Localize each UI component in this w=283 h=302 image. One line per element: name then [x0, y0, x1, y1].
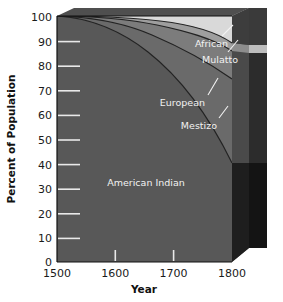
x-tick-label: 1600: [101, 267, 129, 280]
series-label-african: African: [195, 38, 228, 49]
population-composition-chart: 100 90 80 70 60 50 40 30 20 10 0 1500 16…: [0, 0, 283, 302]
series-label-mulatto: Mulatto: [202, 54, 238, 65]
stacked-areas: [57, 16, 232, 262]
series-label-mestizo: Mestizo: [181, 120, 217, 131]
depth-top-face: [57, 8, 249, 16]
y-tick-label: 50: [38, 134, 52, 147]
y-tick-label: 40: [38, 159, 52, 172]
x-axis-tick-labels: 1500 1600 1700 1800: [43, 267, 246, 280]
y-tick-label: 100: [31, 11, 52, 24]
x-tick-label: 1700: [160, 267, 188, 280]
y-tick-label: 80: [38, 60, 52, 73]
depth-outer-edge: [249, 8, 267, 248]
y-axis-title: Percent of Population: [5, 75, 17, 204]
y-tick-label: 20: [38, 208, 52, 221]
x-tick-label: 1500: [43, 267, 71, 280]
series-label-european: European: [160, 97, 205, 108]
y-tick-label: 90: [38, 36, 52, 49]
y-tick-label: 70: [38, 85, 52, 98]
y-axis-tick-labels: 100 90 80 70 60 50 40 30 20 10 0: [31, 11, 52, 270]
x-tick-label: 1800: [218, 267, 246, 280]
y-tick-label: 60: [38, 109, 52, 122]
depth-right-face: [232, 8, 249, 262]
x-axis-title: Year: [130, 283, 158, 295]
series-label-american-indian: American Indian: [107, 177, 185, 188]
y-tick-label: 10: [38, 232, 52, 245]
y-tick-label: 30: [38, 183, 52, 196]
chart-svg: 100 90 80 70 60 50 40 30 20 10 0 1500 16…: [0, 0, 283, 302]
